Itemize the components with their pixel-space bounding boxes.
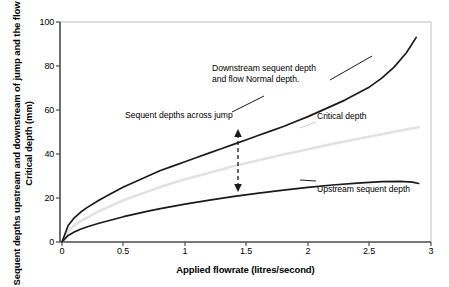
series-downstream-sequent-depth: [62, 37, 416, 242]
leader-line-upstream: [300, 180, 316, 181]
chart-canvas: [0, 0, 449, 287]
leader-line-critical-depth: [300, 122, 316, 128]
leader-line-downstream: [330, 56, 372, 80]
axis-lines: [60, 22, 431, 242]
jump-arrow: [234, 129, 242, 192]
leader-line-sequent-depths: [232, 96, 264, 112]
plot-frame: [60, 22, 431, 242]
chart-figure: Sequent depths upstream and downstream o…: [0, 0, 449, 287]
